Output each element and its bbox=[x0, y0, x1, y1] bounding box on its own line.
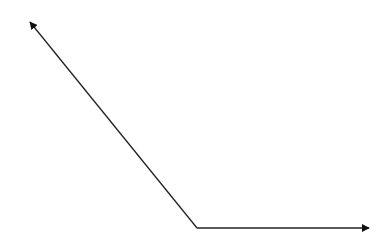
angle-diagram bbox=[0, 0, 379, 241]
upper-left-ray-arrow bbox=[30, 22, 197, 228]
